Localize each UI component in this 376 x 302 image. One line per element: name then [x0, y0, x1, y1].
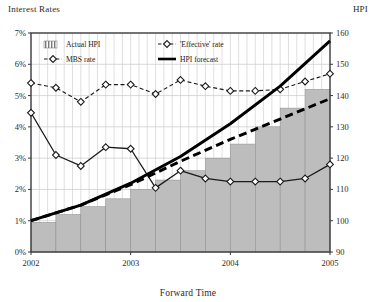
svg-text:140: 140	[336, 91, 349, 101]
svg-text:90: 90	[336, 247, 345, 257]
chart-plot-area: 0%1%2%3%4%5%6%7%901001101201301401501602…	[0, 0, 376, 302]
legend-label: Actual HPI	[66, 40, 101, 49]
svg-text:6%: 6%	[15, 59, 26, 69]
svg-text:160: 160	[336, 28, 349, 38]
legend-label: MBS rate	[66, 55, 96, 64]
svg-text:3%: 3%	[15, 153, 26, 163]
svg-text:0%: 0%	[15, 247, 26, 257]
svg-text:1%: 1%	[15, 216, 26, 226]
legend-label: 'Effective' rate	[180, 40, 224, 49]
svg-text:2%: 2%	[15, 184, 26, 194]
legend-item: 'Effective' rate	[158, 40, 224, 49]
svg-text:130: 130	[336, 122, 349, 132]
svg-text:2004: 2004	[222, 258, 240, 268]
chart-figure: Interest Rates HPI Forward Time 0%1%2%3%…	[0, 0, 376, 302]
legend-item: Actual HPI	[44, 40, 101, 49]
legend-label: HPI forecast	[180, 55, 219, 64]
legend-item: MBS rate	[44, 55, 96, 64]
svg-text:4%: 4%	[15, 122, 26, 132]
svg-text:120: 120	[336, 153, 349, 163]
svg-text:2005: 2005	[322, 258, 339, 268]
svg-text:150: 150	[336, 59, 349, 69]
svg-text:2003: 2003	[122, 258, 139, 268]
svg-text:110: 110	[336, 184, 348, 194]
svg-text:5%: 5%	[15, 91, 26, 101]
legend-item: HPI forecast	[158, 55, 219, 64]
svg-text:7%: 7%	[15, 28, 26, 38]
svg-text:2002: 2002	[23, 258, 40, 268]
svg-text:100: 100	[336, 216, 349, 226]
